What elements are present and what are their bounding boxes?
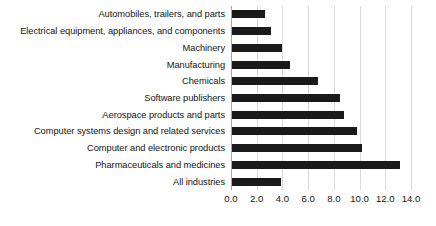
x-tick-label: 14.0: [402, 193, 421, 204]
category-label: Computer and electronic products: [87, 143, 225, 153]
bar: [232, 10, 265, 18]
category-label: Machinery: [183, 43, 225, 53]
category-label: Automobiles, trailers, and parts: [98, 9, 225, 19]
x-tick-label: 2.0: [250, 193, 263, 204]
x-tick-label: 10.0: [350, 193, 369, 204]
bar: [232, 111, 344, 119]
category-label: All industries: [173, 177, 225, 187]
gridline: [411, 6, 412, 190]
category-label: Aerospace products and parts: [102, 110, 225, 120]
x-tick-label: 6.0: [301, 193, 314, 204]
x-axis-tick-labels: 0.02.04.06.08.010.012.014.0: [231, 193, 411, 209]
category-label: Electrical equipment, appliances, and co…: [20, 26, 225, 36]
bar: [232, 161, 400, 169]
bar: [232, 94, 340, 102]
x-tick-label: 12.0: [376, 193, 395, 204]
bar: [232, 61, 290, 69]
category-label: Computer systems design and related serv…: [34, 126, 225, 136]
bar: [232, 77, 318, 85]
category-label: Software publishers: [144, 93, 225, 103]
x-tick-label: 4.0: [276, 193, 289, 204]
bar-chart: Automobiles, trailers, and partsElectric…: [0, 0, 436, 226]
category-label: Manufacturing: [167, 60, 225, 70]
x-tick-label: 0.0: [224, 193, 237, 204]
category-label: Pharmaceuticals and medicines: [95, 160, 225, 170]
category-label: Chemicals: [182, 76, 225, 86]
bar: [232, 127, 357, 135]
x-tick-label: 8.0: [327, 193, 340, 204]
category-axis-labels: Automobiles, trailers, and partsElectric…: [0, 0, 229, 190]
bar: [232, 27, 271, 35]
plot-area: [231, 6, 411, 190]
bar: [232, 178, 281, 186]
bar: [232, 144, 362, 152]
bar: [232, 44, 282, 52]
